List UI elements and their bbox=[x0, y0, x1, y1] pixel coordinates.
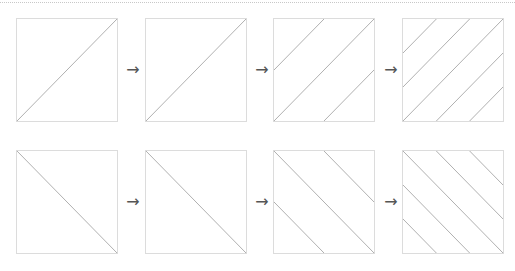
diagonal-line bbox=[17, 151, 117, 253]
diagonal-line bbox=[274, 228, 299, 254]
diagonal-line bbox=[403, 19, 453, 70]
diagonal-line bbox=[420, 36, 503, 121]
panel-row1-step2 bbox=[145, 18, 247, 122]
diagonal-line bbox=[453, 151, 503, 202]
right-arrow-icon: → bbox=[381, 195, 401, 209]
diagonal-line bbox=[146, 151, 246, 253]
diagonal-line bbox=[274, 151, 374, 253]
diagonal-line bbox=[403, 19, 420, 36]
diagonal-lines bbox=[146, 151, 246, 253]
diagonal-line bbox=[349, 96, 374, 122]
diagonal-line bbox=[420, 151, 503, 236]
diagonal-line bbox=[196, 151, 246, 202]
panel-row1-step3 bbox=[273, 18, 375, 122]
diagonal-line bbox=[403, 151, 503, 253]
panel-row1-step1 bbox=[16, 18, 118, 122]
top-dotted-rule bbox=[0, 2, 515, 3]
diagonal-line bbox=[403, 19, 503, 121]
diagonal-lines bbox=[17, 151, 117, 253]
diagonal-line bbox=[299, 151, 374, 228]
panel-row2-step1 bbox=[16, 150, 118, 254]
diagonal-lines bbox=[403, 151, 503, 253]
diagonal-lines bbox=[17, 19, 117, 121]
diagonal-line bbox=[486, 151, 503, 168]
right-arrow-icon: → bbox=[252, 195, 272, 209]
diagonal-line bbox=[146, 19, 246, 121]
right-arrow-icon: → bbox=[123, 63, 143, 77]
right-arrow-icon: → bbox=[381, 63, 401, 77]
panel-row2-step2 bbox=[145, 150, 247, 254]
diagonal-line bbox=[486, 104, 503, 121]
diagonal-line bbox=[17, 19, 117, 121]
diagonal-line bbox=[196, 70, 246, 121]
panel-row2-step3 bbox=[273, 150, 375, 254]
diagonal-line bbox=[274, 19, 299, 45]
diagonal-line bbox=[146, 202, 196, 253]
diagonal-line bbox=[274, 19, 374, 121]
diagonal-lines bbox=[274, 151, 374, 253]
diagonal-line bbox=[403, 202, 453, 253]
diagonal-line bbox=[349, 151, 374, 177]
panel-row1-step4 bbox=[402, 18, 504, 122]
diagonal-line bbox=[299, 45, 374, 122]
diagonal-lines bbox=[403, 19, 503, 121]
diagonal-line bbox=[146, 19, 196, 70]
diagonal-line bbox=[274, 19, 349, 96]
diagonal-line bbox=[453, 70, 503, 121]
diagonal-line bbox=[403, 168, 486, 253]
diagonal-line bbox=[403, 236, 420, 253]
diagonal-line bbox=[274, 177, 349, 254]
diagonal-lines bbox=[274, 19, 374, 121]
diagonal-line bbox=[403, 19, 486, 104]
diagonal-lines bbox=[146, 19, 246, 121]
right-arrow-icon: → bbox=[252, 63, 272, 77]
panel-row2-step4 bbox=[402, 150, 504, 254]
right-arrow-icon: → bbox=[123, 195, 143, 209]
